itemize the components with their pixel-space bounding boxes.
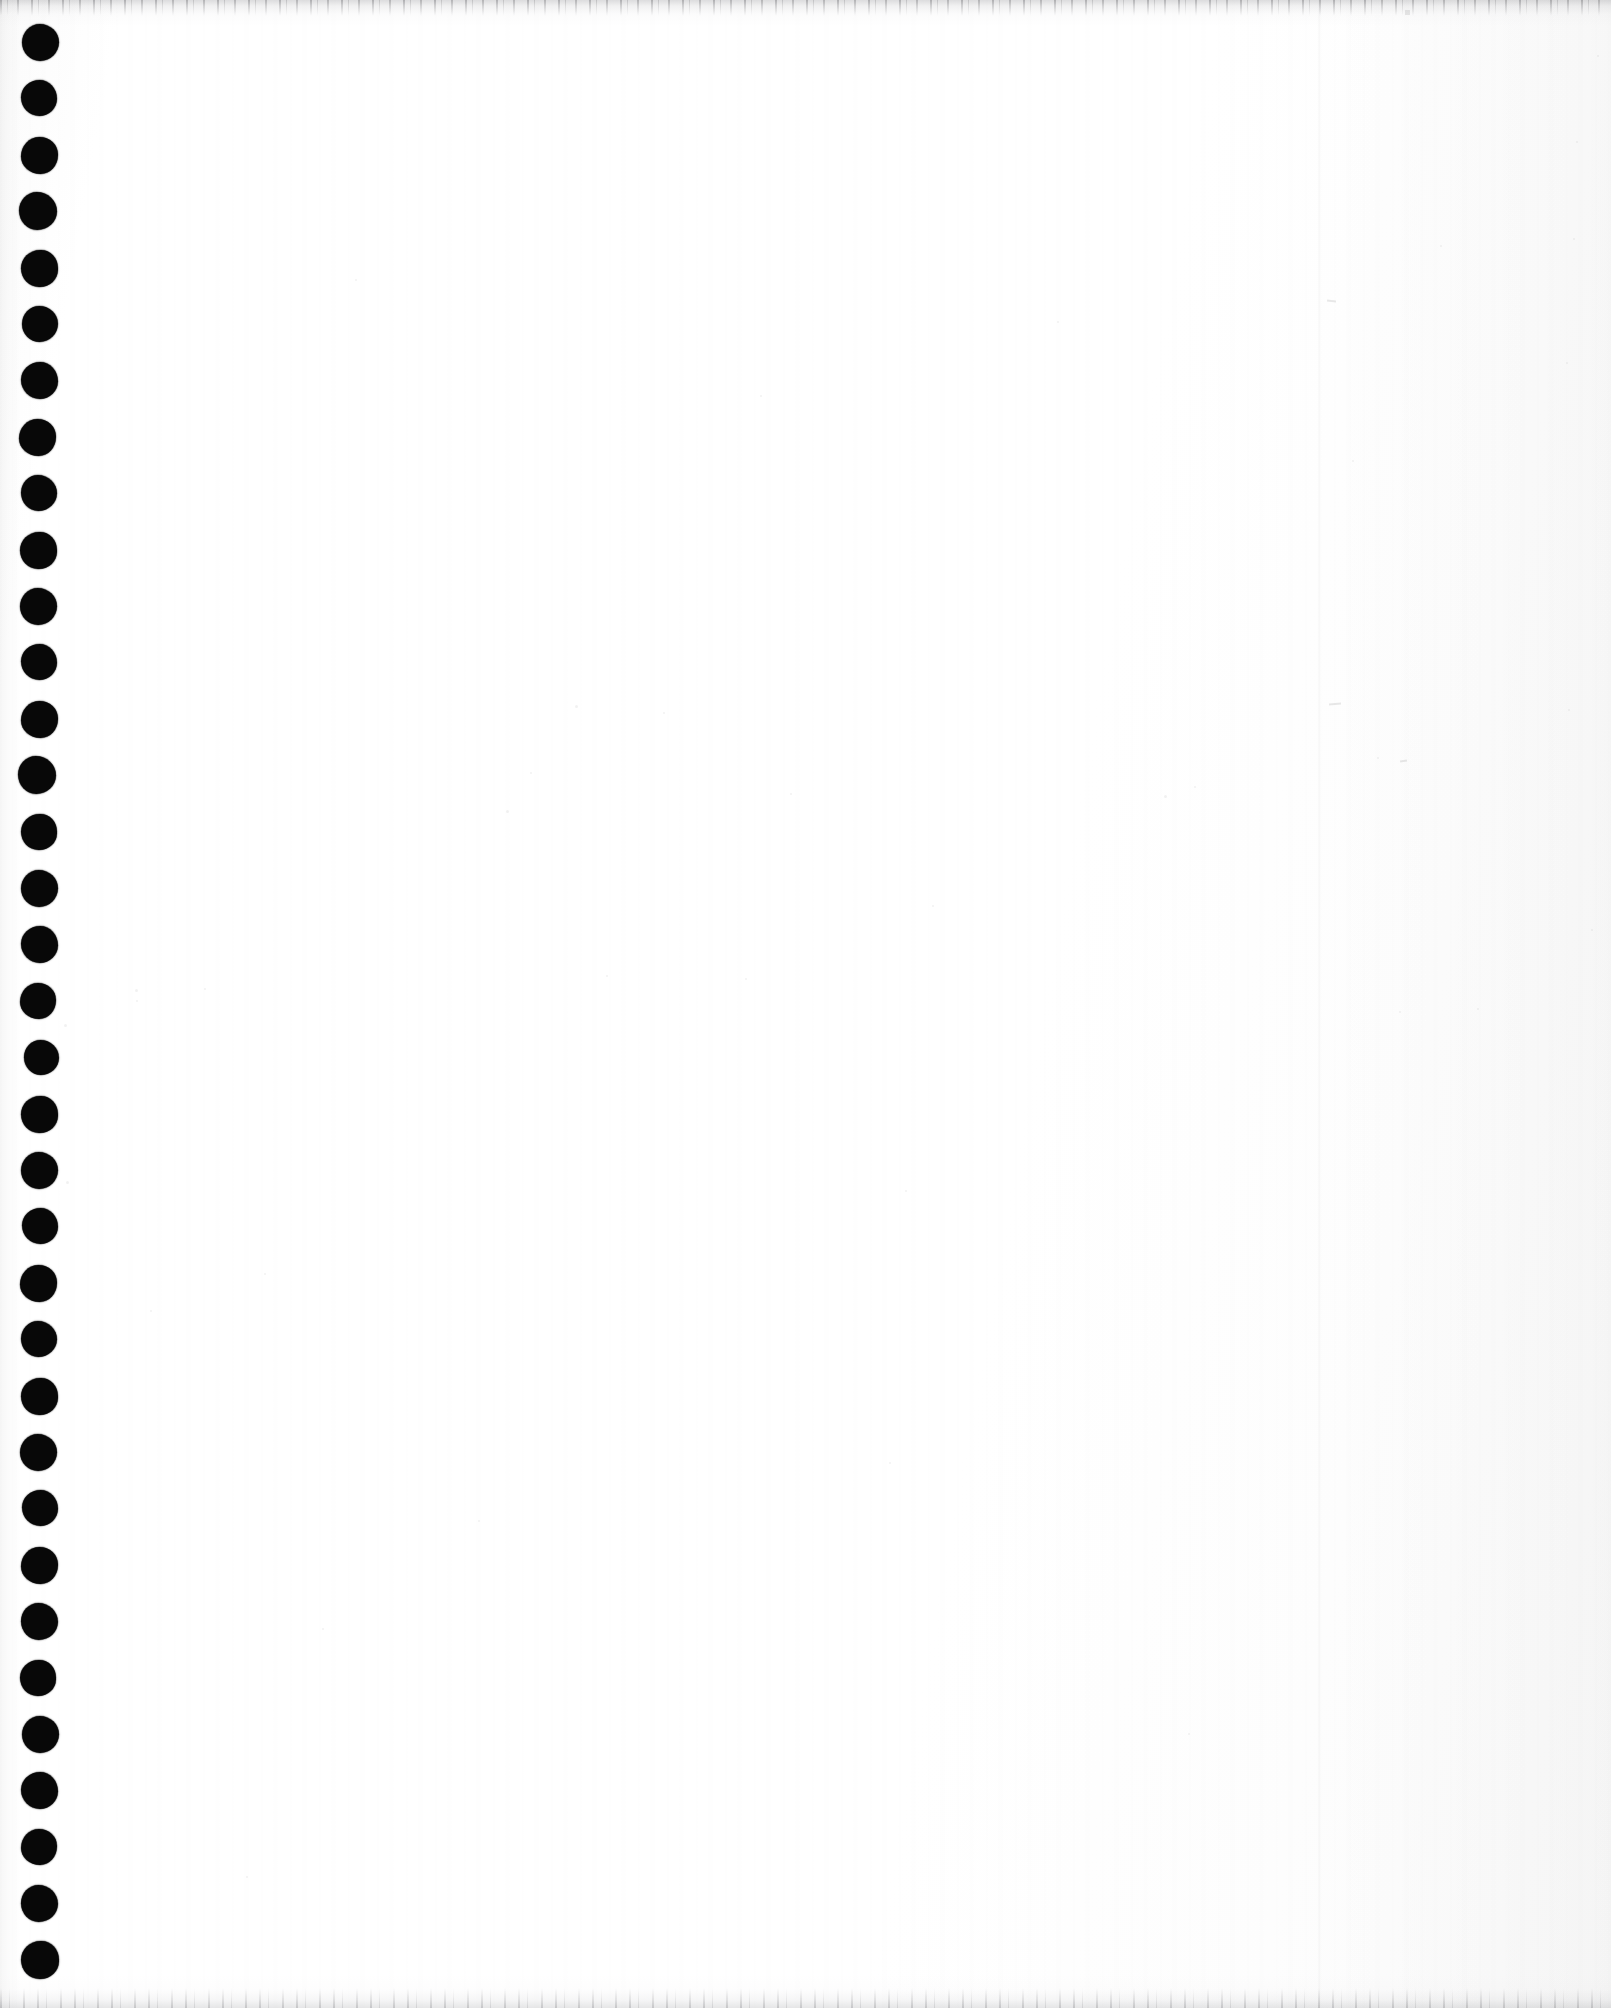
scanned-notebook-page: [0, 0, 1611, 2008]
paper-surface: [0, 0, 1611, 2008]
